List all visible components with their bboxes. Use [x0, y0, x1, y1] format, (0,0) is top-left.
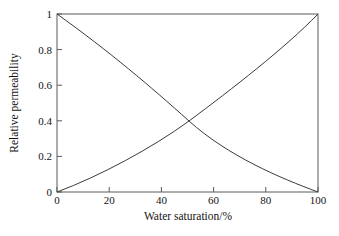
x-axis-title: Water saturation/%	[144, 210, 232, 222]
x-tick-label-100: 100	[310, 195, 327, 206]
x-tick-label-20: 20	[104, 195, 115, 206]
x-tick-label-80: 80	[260, 195, 271, 206]
y-tick-label-0-8: 0.8	[28, 44, 52, 55]
y-tick-label-0-6: 0.6	[28, 80, 52, 91]
y-tick-label-1: 1	[28, 9, 52, 20]
y-tick-label-0-2: 0.2	[28, 151, 52, 162]
relative-permeability-chart: 0 20 40 60 80 100 0 0.2 0.4 0.6 0.8 1 Wa…	[0, 0, 339, 236]
x-tick-label-60: 60	[208, 195, 219, 206]
x-tick-label-0: 0	[54, 195, 60, 206]
x-tick-label-40: 40	[156, 195, 167, 206]
y-tick-label-0: 0	[28, 187, 52, 198]
plot-frame	[57, 14, 318, 192]
y-tick-label-0-4: 0.4	[28, 115, 52, 126]
y-axis-title: Relative permeability	[8, 53, 20, 152]
